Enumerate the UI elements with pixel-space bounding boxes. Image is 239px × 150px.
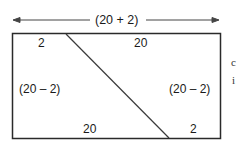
label-left-middle: (20 – 2) bbox=[19, 82, 60, 96]
label-bottom-right: 2 bbox=[190, 122, 197, 136]
label-right-middle: (20 – 2) bbox=[169, 82, 210, 96]
arrow-left-icon bbox=[13, 18, 20, 23]
label-top-right: 20 bbox=[134, 36, 147, 50]
diagonal-cut-line bbox=[66, 34, 169, 138]
arrow-right-icon bbox=[212, 18, 219, 23]
label-top-left: 2 bbox=[38, 36, 45, 50]
label-bottom-left: 20 bbox=[83, 122, 96, 136]
top-dimension-label: (20 + 2) bbox=[95, 13, 138, 27]
cropped-side-text-1: c bbox=[231, 56, 236, 68]
cropped-side-text-2: i bbox=[232, 74, 235, 86]
